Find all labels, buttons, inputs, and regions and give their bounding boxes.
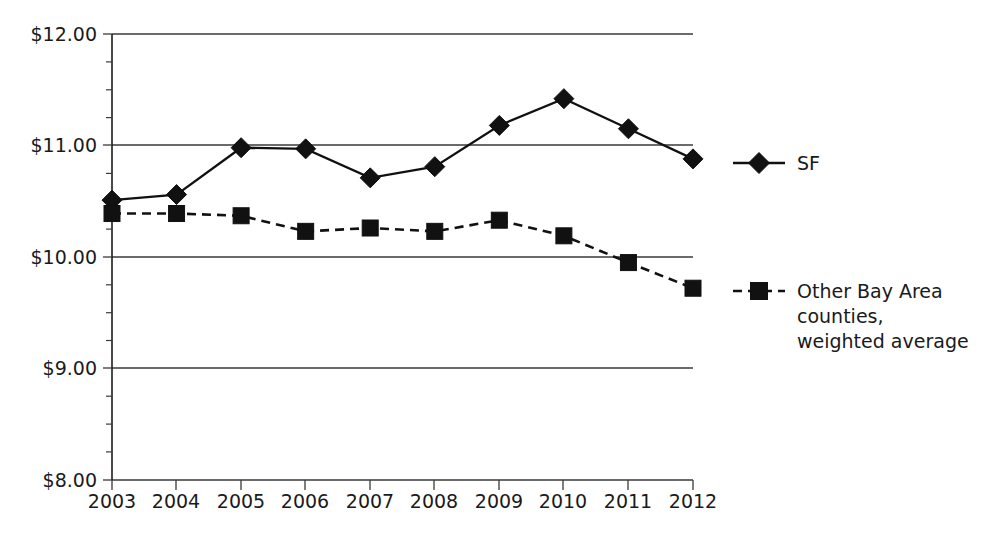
legend-label-other-line-2: counties, (797, 305, 884, 327)
square-marker (233, 208, 249, 224)
x-tick-label-2011: 2011 (604, 490, 652, 512)
x-tick-label-2005: 2005 (217, 490, 265, 512)
legend-label-other-line-3: weighted average (797, 330, 969, 352)
legend-label-sf: SF (797, 152, 820, 174)
square-marker (427, 223, 443, 239)
x-tick-label-2003: 2003 (88, 490, 136, 512)
x-tick-label-2007: 2007 (346, 490, 394, 512)
x-tick-label-2010: 2010 (539, 490, 587, 512)
square-marker (362, 220, 378, 236)
square-marker (169, 206, 185, 222)
square-marker (685, 280, 701, 296)
square-marker (556, 228, 572, 244)
chart-background (0, 0, 982, 540)
square-marker (298, 223, 314, 239)
square-marker (491, 212, 507, 228)
square-marker (751, 283, 768, 300)
y-tick-label-8: $8.00 (43, 469, 97, 491)
x-tick-label-2004: 2004 (152, 490, 200, 512)
x-tick-label-2009: 2009 (475, 490, 523, 512)
square-marker (620, 255, 636, 271)
x-tick-label-2006: 2006 (281, 490, 329, 512)
legend-label-other-line-1: Other Bay Area (797, 280, 943, 302)
y-tick-label-11: $11.00 (31, 134, 97, 156)
chart-canvas: $12.00 $11.00 $10.00 $9.00 $8.00 2003 20… (0, 0, 982, 540)
x-tick-label-2012: 2012 (669, 490, 717, 512)
square-marker (104, 206, 120, 222)
y-tick-label-9: $9.00 (43, 357, 97, 379)
y-tick-label-10: $10.00 (31, 246, 97, 268)
x-tick-label-2008: 2008 (410, 490, 458, 512)
y-tick-label-12: $12.00 (31, 23, 97, 45)
line-chart: $12.00 $11.00 $10.00 $9.00 $8.00 2003 20… (0, 0, 982, 540)
